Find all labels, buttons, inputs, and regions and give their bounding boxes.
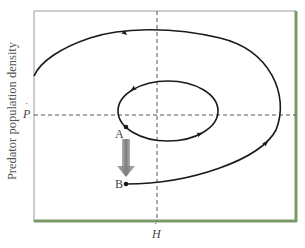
plot-frame xyxy=(34,11,297,222)
phase-plane-diagram: Predator population density ˙ P ˙ H A B xyxy=(0,0,305,248)
predator-equilibrium-label: ˙ P xyxy=(23,107,30,122)
point-b-marker xyxy=(124,182,129,187)
perturbation-arrow-icon xyxy=(117,139,135,177)
prey-equilibrium-label: ˙ H xyxy=(152,227,161,242)
point-a-label: A xyxy=(115,127,124,142)
inner-cycle xyxy=(118,81,218,141)
equilibrium-dot: ˙ xyxy=(154,221,157,232)
y-axis-label: Predator population density xyxy=(5,41,23,181)
point-b-label: B xyxy=(115,177,123,192)
point-a-marker xyxy=(124,125,129,130)
diagram-canvas xyxy=(0,0,305,248)
equilibrium-dot: ˙ xyxy=(25,101,28,112)
